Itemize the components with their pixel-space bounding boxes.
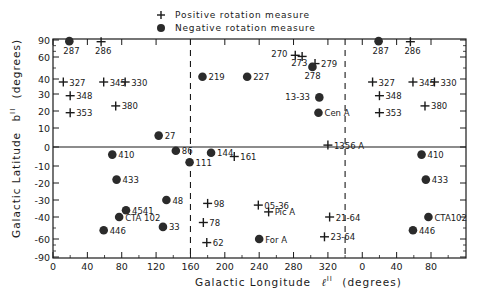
legend-negative-label: Negative rotation measure: [175, 23, 316, 33]
negative-point: 227: [243, 72, 270, 82]
point-label: 219: [208, 72, 224, 82]
y-axis-unit: (degrees): [10, 39, 22, 98]
point-label: 287: [373, 46, 389, 56]
x-tick-label: 40: [391, 261, 403, 272]
negative-point: 433: [422, 175, 449, 185]
positive-point: 330: [430, 78, 457, 88]
x-tick-label: 240: [250, 261, 268, 272]
point-label: 13-33: [285, 92, 310, 102]
point-label: 433: [432, 175, 448, 185]
positive-point: 21-64: [325, 213, 360, 223]
y-tick-label: 40: [38, 74, 50, 85]
point-label: 1356 A: [334, 141, 364, 151]
x-tick-label: 80: [425, 261, 437, 272]
x-tick-label: 200: [216, 261, 234, 272]
y-tick-label: 30: [38, 89, 50, 100]
point-label: 278: [304, 71, 320, 81]
y-tick-label: 0: [44, 142, 50, 153]
legend: Positive rotation measure Negative rotat…: [157, 10, 316, 33]
circle-marker-icon: [243, 73, 252, 82]
positive-point: 353: [375, 108, 402, 118]
positive-point: 348: [375, 91, 402, 101]
y-axis-ticks: 9060403020100-10-20-30-40-60-90: [34, 35, 466, 263]
y-tick-label: -10: [34, 161, 50, 172]
y-tick-label: 60: [38, 52, 50, 63]
y-tick-label: -20: [34, 178, 50, 189]
negative-point: 111: [185, 158, 212, 168]
point-label: 327: [379, 78, 395, 88]
negative-point: 48: [162, 196, 183, 206]
negative-point: 33: [159, 222, 180, 232]
point-label: 353: [76, 108, 92, 118]
point-label: 330: [131, 78, 147, 88]
positive-point: 161: [230, 152, 257, 162]
x-axis-title-text: Galactic Longitude: [195, 276, 311, 288]
circle-marker-icon: [417, 150, 426, 159]
negative-point: 219: [198, 72, 225, 82]
point-label: 410: [428, 150, 444, 160]
legend-positive-label: Positive rotation measure: [175, 10, 310, 20]
positive-point: 286: [95, 37, 111, 56]
negative-point: Cen A: [314, 108, 350, 118]
point-label: 21-64: [336, 213, 361, 223]
point-label: 446: [419, 226, 435, 236]
x-tick-label: 40: [81, 261, 93, 272]
circle-marker-icon: [172, 147, 181, 156]
circle-marker-icon: [108, 150, 117, 159]
point-label: 273: [291, 58, 307, 68]
positive-point: 353: [66, 108, 93, 118]
point-label: 380: [122, 101, 138, 111]
point-label: 227: [253, 72, 269, 82]
x-tick-label: 280: [284, 261, 302, 272]
point-label: 78: [209, 218, 220, 228]
positive-point: 380: [111, 101, 138, 111]
point-label: 27: [165, 131, 176, 141]
y-tick-label: 10: [38, 123, 50, 134]
circle-marker-icon: [255, 235, 264, 244]
y-axis-sup: II: [9, 108, 17, 114]
point-label: 279: [321, 59, 337, 69]
point-label: 410: [118, 150, 134, 160]
point-label: 286: [404, 46, 420, 56]
point-label: 353: [385, 108, 401, 118]
point-label: 144: [217, 148, 233, 158]
y-tick-label: -30: [34, 195, 50, 206]
point-label: 48: [172, 196, 183, 206]
x-tick-label: 0: [50, 261, 56, 272]
negative-point: CTA102: [424, 213, 467, 223]
y-tick-label: 90: [38, 35, 50, 46]
circle-marker-icon: [315, 93, 324, 102]
negative-point: 446: [99, 226, 126, 236]
point-label: 330: [440, 78, 456, 88]
circle-marker-icon: [154, 131, 163, 140]
negative-point: 144: [207, 148, 234, 158]
positive-point: 348: [66, 91, 93, 101]
positive-point: 327: [59, 78, 86, 88]
positive-point: 23-64: [320, 232, 355, 242]
rotation-measure-sky-chart: Positive rotation measure Negative rotat…: [0, 0, 482, 298]
point-label: 327: [69, 78, 85, 88]
x-tick-label: 0: [359, 261, 365, 272]
circle-marker-icon: [65, 37, 74, 46]
x-axis-unit: (degrees): [342, 276, 401, 288]
point-label: 270: [271, 49, 287, 59]
x-tick-label: 120: [147, 261, 165, 272]
point-label: Cen A: [324, 108, 349, 118]
point-label: 111: [196, 158, 212, 168]
circle-marker-icon: [162, 196, 171, 205]
point-label: 433: [123, 175, 139, 185]
positive-point: 380: [420, 101, 447, 111]
point-label: 348: [76, 91, 92, 101]
positive-point: 78: [199, 218, 220, 228]
y-tick-label: 20: [38, 106, 50, 117]
data-points: 2863273453303483803532702732791356 A1619…: [59, 37, 467, 248]
point-label: 380: [431, 101, 447, 111]
y-tick-label: -40: [34, 212, 50, 223]
negative-point: 27: [154, 131, 175, 141]
point-label: 161: [240, 152, 256, 162]
negative-point: 287: [63, 37, 79, 56]
x-axis-sup: II: [327, 275, 333, 283]
point-label: 62: [213, 238, 224, 248]
positive-point: Pic A: [264, 207, 295, 217]
circle-marker-icon: [185, 158, 194, 167]
